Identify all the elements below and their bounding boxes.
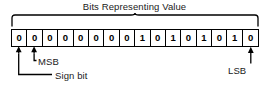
diagram-title: Bits Representing Value: [0, 1, 269, 12]
bit-cell: 0: [212, 30, 227, 46]
bit-cell: 1: [166, 30, 181, 46]
lsb-leader-icon: [248, 47, 254, 64]
bit-row: 0 0 0 0 0 0 0 0 1 0 1 0 1 0 1 0: [11, 29, 259, 47]
bit-cell: 0: [120, 30, 135, 46]
bit-cell: 1: [135, 30, 150, 46]
bit-cell: 0: [104, 30, 119, 46]
bit-cell: 0: [43, 30, 58, 46]
bit-cell: 0: [243, 30, 258, 46]
bit-field-diagram: Bits Representing Value 0 0 0 0 0 0 0 0 …: [0, 0, 269, 85]
bit-cell: 0: [74, 30, 89, 46]
bit-cell: 0: [27, 30, 42, 46]
bit-cell: 1: [227, 30, 242, 46]
lsb-label: LSB: [228, 65, 246, 76]
bit-cell: 0: [151, 30, 166, 46]
bit-cell: 0: [58, 30, 73, 46]
msb-label: MSB: [38, 56, 59, 67]
bit-cell: 1: [197, 30, 212, 46]
bit-cell: 0: [12, 30, 27, 46]
sign-bit-label: Sign bit: [55, 70, 88, 81]
bit-cell: 0: [181, 30, 196, 46]
bit-cell: 0: [89, 30, 104, 46]
value-range-brace-icon: [11, 13, 259, 27]
msb-leader-icon: [31, 46, 37, 60]
